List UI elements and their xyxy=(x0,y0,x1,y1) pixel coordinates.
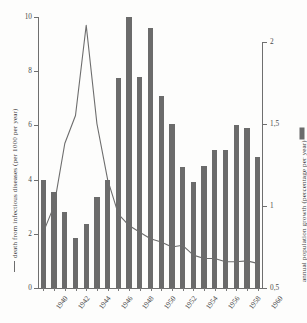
y-axis-tick-label: 2 xyxy=(28,229,32,238)
x-axis-tick xyxy=(247,288,248,291)
line-series-legend-swatch xyxy=(14,261,15,272)
y2-axis-tick xyxy=(263,206,267,207)
y2-axis-tick-label: 1,5 xyxy=(270,119,279,128)
x-axis-tick xyxy=(183,288,184,291)
x-axis-tick xyxy=(97,288,98,291)
y2-axis-tick-label: 0,5 xyxy=(270,283,279,292)
x-axis-tick xyxy=(86,288,87,291)
x-axis-tick xyxy=(215,288,216,291)
y2-axis-tick xyxy=(263,42,267,43)
y2-axis-tick-label: 2 xyxy=(270,37,274,46)
x-axis-tick xyxy=(43,288,44,291)
line-series xyxy=(38,17,263,288)
x-axis-tick xyxy=(54,288,55,291)
y-axis-tick-label: 10 xyxy=(25,12,32,21)
x-axis-tick-label: 1948 xyxy=(140,294,156,311)
x-axis-tick-label: 1952 xyxy=(183,294,199,311)
x-axis-tick-label: 1940 xyxy=(54,294,70,311)
y2-axis-label-text: annual population growth (percentage per… xyxy=(300,140,307,282)
x-axis-tick-label: 1946 xyxy=(118,294,134,311)
x-axis-tick xyxy=(161,288,162,291)
line-series-path xyxy=(43,25,257,263)
x-axis-tick-label: 1942 xyxy=(75,294,91,311)
x-axis-tick xyxy=(258,288,259,291)
y2-axis-tick-label: 1 xyxy=(270,201,274,210)
x-axis-tick xyxy=(118,288,119,291)
x-axis-tick xyxy=(236,288,237,291)
x-axis-tick xyxy=(172,288,173,291)
y-axis-tick-label: 8 xyxy=(28,66,32,75)
x-axis-tick-label: 1958 xyxy=(247,294,263,311)
y-axis-label: death from infectious diseases (per 1000… xyxy=(11,108,19,272)
x-axis-tick xyxy=(193,288,194,291)
y2-axis-tick xyxy=(263,124,267,125)
bar-series-legend-swatch xyxy=(300,128,305,140)
y2-axis-label: annual population growth (percentage per… xyxy=(296,131,307,282)
x-axis-tick xyxy=(226,288,227,291)
x-axis-tick-label: 1950 xyxy=(161,294,177,311)
x-axis-tick xyxy=(76,288,77,291)
x-axis-tick xyxy=(140,288,141,291)
y-axis-tick-label: 4 xyxy=(28,175,32,184)
x-axis-tick xyxy=(108,288,109,291)
y2-axis-tick xyxy=(263,288,267,289)
y-axis-tick-label: 0 xyxy=(28,283,32,292)
x-axis-tick-label: 1944 xyxy=(97,294,113,311)
y-axis-tick-label: 6 xyxy=(28,120,32,129)
x-axis-tick xyxy=(151,288,152,291)
x-axis-tick xyxy=(204,288,205,291)
x-axis-tick-label: 1954 xyxy=(204,294,220,311)
x-axis-tick xyxy=(65,288,66,291)
x-axis-tick-label: 1960 xyxy=(268,294,284,311)
chart-container: death from infectious diseases (per 1000… xyxy=(0,0,307,323)
y-axis-label-text: death from infectious diseases (per 1000… xyxy=(11,108,19,258)
y-axis-tick xyxy=(34,288,38,289)
x-axis-tick-label: 1956 xyxy=(225,294,241,311)
x-axis-tick xyxy=(129,288,130,291)
plot-area: 0246810 0,511,52 19401942194419461948195… xyxy=(38,17,263,288)
